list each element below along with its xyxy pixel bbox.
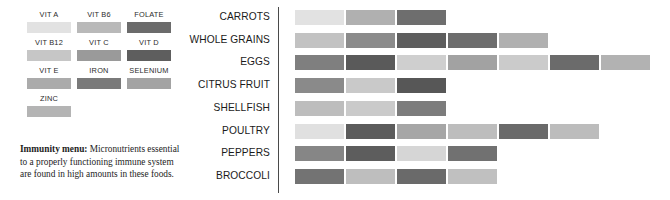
bar-segment xyxy=(499,33,548,48)
bar-segment xyxy=(346,146,395,161)
chart-row-bar xyxy=(295,10,446,25)
bar-segment xyxy=(397,78,446,93)
bar-segment xyxy=(499,55,548,70)
chart-row: CITRUS FRUIT xyxy=(0,77,670,93)
bar-segment xyxy=(346,10,395,25)
chart-row: PEPPERS xyxy=(0,145,670,161)
bar-segment xyxy=(550,55,599,70)
bar-segment xyxy=(397,169,446,184)
chart-row-bar xyxy=(295,78,446,93)
chart-row-label: WHOLE GRAINS xyxy=(186,32,270,48)
bar-segment xyxy=(397,33,446,48)
chart-row-bar xyxy=(295,124,599,139)
chart-row: EGGS xyxy=(0,54,670,70)
bar-segment xyxy=(346,169,395,184)
bar-segment xyxy=(295,101,344,116)
chart-row-bar xyxy=(295,33,548,48)
bar-segment xyxy=(295,169,344,184)
bar-segment xyxy=(448,33,497,48)
chart-row-label: BROCCOLI xyxy=(186,168,270,184)
bar-segment xyxy=(550,124,599,139)
chart-row-label: PEPPERS xyxy=(186,145,270,161)
bar-segment xyxy=(397,10,446,25)
chart-row: WHOLE GRAINS xyxy=(0,32,670,48)
bar-segment xyxy=(295,124,344,139)
bar-segment xyxy=(397,55,446,70)
bar-segment xyxy=(601,55,650,70)
chart-row-bar xyxy=(295,101,446,116)
bar-segment xyxy=(295,10,344,25)
chart-row-label: SHELLFISH xyxy=(186,100,270,116)
bar-segment xyxy=(499,124,548,139)
bar-segment xyxy=(346,78,395,93)
bar-segment xyxy=(397,101,446,116)
bar-segment xyxy=(448,146,497,161)
bar-segment xyxy=(448,169,497,184)
bar-segment xyxy=(295,55,344,70)
chart-row: POULTRY xyxy=(0,123,670,139)
bar-segment xyxy=(448,124,497,139)
chart-row: SHELLFISH xyxy=(0,100,670,116)
bar-segment xyxy=(397,146,446,161)
bar-segment xyxy=(295,33,344,48)
chart-row-label: EGGS xyxy=(186,54,270,70)
bar-segment xyxy=(346,124,395,139)
bar-segment xyxy=(397,124,446,139)
bar-segment xyxy=(448,55,497,70)
chart-row-bar xyxy=(295,169,497,184)
chart-row-label: CITRUS FRUIT xyxy=(186,77,270,93)
chart-row-label: POULTRY xyxy=(186,123,270,139)
bar-segment xyxy=(295,78,344,93)
bar-segment xyxy=(346,55,395,70)
bar-segment xyxy=(295,146,344,161)
chart-row-label: CARROTS xyxy=(186,9,270,25)
chart-row-bar xyxy=(295,146,497,161)
bar-segment xyxy=(346,33,395,48)
food-micronutrient-chart: CARROTSWHOLE GRAINSEGGSCITRUS FRUITSHELL… xyxy=(0,0,670,200)
chart-row: CARROTS xyxy=(0,9,670,25)
chart-row-bar xyxy=(295,55,650,70)
chart-row: BROCCOLI xyxy=(0,168,670,184)
bar-segment xyxy=(346,101,395,116)
